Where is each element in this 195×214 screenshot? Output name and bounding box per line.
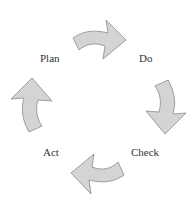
- stage-label-plan: Plan: [40, 53, 60, 64]
- stage-label-do: Do: [139, 53, 152, 64]
- arrow-do-to-check-icon: [146, 80, 186, 134]
- stage-label-check: Check: [131, 147, 159, 158]
- arrow-act-to-plan-icon: [11, 78, 52, 132]
- cycle-arrows: [0, 0, 195, 214]
- stage-label-act: Act: [43, 147, 59, 158]
- arrow-check-to-act-icon: [71, 154, 124, 194]
- arrow-plan-to-do-icon: [73, 20, 126, 59]
- pdca-cycle-diagram: Plan Do Check Act: [0, 0, 195, 214]
